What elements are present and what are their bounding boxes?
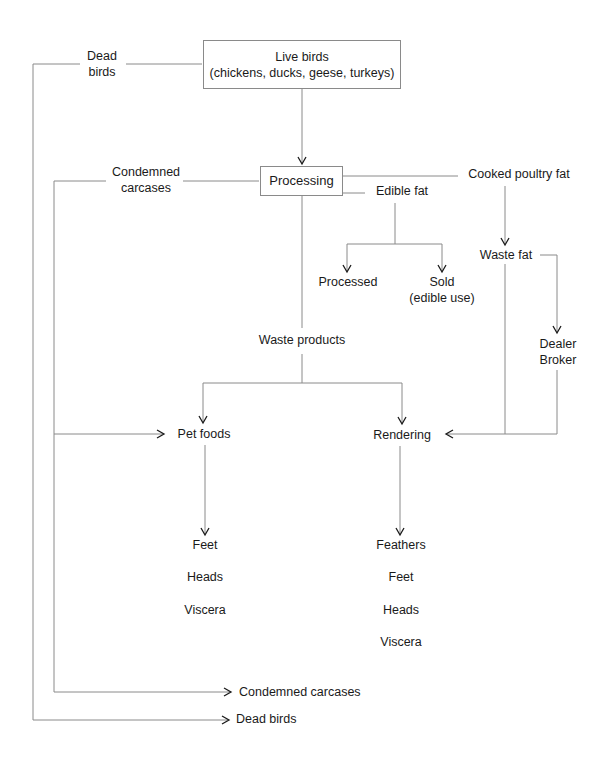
node-sold: Sold (edible use) (409, 274, 474, 306)
node-dead-birds-bottom: Dead birds (236, 711, 296, 727)
edge-waste-fat-to-dealer (540, 255, 557, 332)
rendering-item: Feet (388, 569, 413, 585)
petfoods-item: Feet (192, 537, 217, 553)
node-dealer-broker: Dealer Broker (540, 336, 577, 368)
petfoods-item: Viscera (184, 602, 225, 618)
node-dead-birds-top: Dead birds (87, 48, 117, 80)
live-birds-label: Live birds (204, 49, 400, 65)
edge-waste-to-rendering (302, 383, 402, 423)
rendering-item: Heads (383, 602, 419, 618)
node-edible-fat: Edible fat (376, 183, 428, 199)
edge-dealer-to-rendering (447, 370, 557, 434)
node-processing: Processing (260, 166, 343, 196)
connector-lines (0, 0, 608, 757)
node-condemned-bottom: Condemned carcases (239, 684, 361, 700)
edge-edible-to-sold (395, 244, 442, 271)
edge-edible-to-processed (347, 203, 395, 271)
node-waste-fat: Waste fat (480, 247, 532, 263)
node-processed: Processed (318, 274, 377, 290)
node-cooked-poultry-fat: Cooked poultry fat (468, 166, 569, 182)
node-waste-products: Waste products (259, 332, 345, 348)
rendering-item: Viscera (380, 634, 421, 650)
poultry-byproduct-flowchart: Live birds (chickens, ducks, geese, turk… (0, 0, 608, 757)
petfoods-item: Heads (187, 569, 223, 585)
edge-waste-to-petfoods (203, 354, 302, 422)
node-live-birds: Live birds (chickens, ducks, geese, turk… (203, 40, 401, 89)
node-pet-foods: Pet foods (178, 426, 231, 442)
node-rendering: Rendering (373, 427, 431, 443)
node-condemned-top: Condemned carcases (112, 164, 180, 196)
rendering-item: Feathers (376, 537, 425, 553)
processing-label: Processing (261, 173, 342, 189)
edge-dead-birds-trunk (33, 64, 228, 720)
live-birds-types: (chickens, ducks, geese, turkeys) (204, 65, 400, 81)
